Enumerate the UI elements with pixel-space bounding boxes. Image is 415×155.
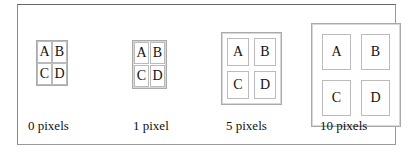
table-cellspacing-5: A B C D <box>221 32 282 105</box>
table-cellspacing-0: A B C D <box>36 40 68 86</box>
cell-a: A <box>227 38 249 66</box>
cell-d: D <box>254 71 276 99</box>
cell-b: B <box>52 41 67 63</box>
cell-c: C <box>37 63 52 85</box>
cell-a: A <box>37 41 52 63</box>
cell-d: D <box>361 80 390 116</box>
cell-a: A <box>322 34 351 70</box>
table-cellspacing-10: A B C D <box>311 23 401 127</box>
cell-c: C <box>322 80 351 116</box>
cell-c: C <box>134 65 149 87</box>
cell-a: A <box>134 42 149 64</box>
cell-b: B <box>150 42 165 64</box>
caption-1-pixel: 1 pixel <box>133 118 169 134</box>
cell-c: C <box>227 71 249 99</box>
caption-10-pixels: 10 pixels <box>320 118 367 134</box>
caption-5-pixels: 5 pixels <box>226 118 267 134</box>
table-cellspacing-1: A B C D <box>132 40 167 89</box>
caption-0-pixels: 0 pixels <box>28 118 69 134</box>
cell-b: B <box>361 34 390 70</box>
cell-d: D <box>52 63 67 85</box>
cell-d: D <box>150 65 165 87</box>
cell-b: B <box>254 38 276 66</box>
